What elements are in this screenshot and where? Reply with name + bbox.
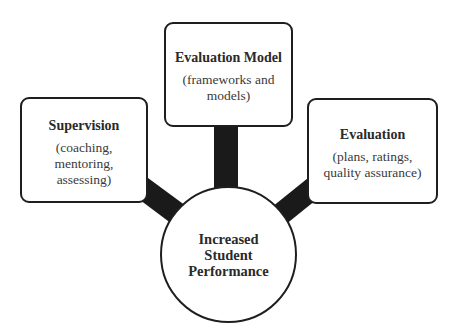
diagram-canvas: Evaluation Model (frameworks and models)… bbox=[0, 0, 457, 335]
center-node-student-performance: Increased Student Performance bbox=[160, 186, 297, 323]
node-heading: Supervision bbox=[22, 118, 146, 134]
node-heading: Evaluation bbox=[309, 127, 436, 143]
node-heading: Evaluation Model bbox=[166, 50, 291, 66]
connector-top bbox=[214, 125, 238, 190]
node-description: (coaching, mentoring, assessing) bbox=[22, 140, 146, 188]
node-evaluation-model: Evaluation Model (frameworks and models) bbox=[164, 22, 293, 127]
node-supervision: Supervision (coaching, mentoring, assess… bbox=[20, 97, 148, 203]
node-description: (frameworks and models) bbox=[166, 72, 291, 104]
node-description: (plans, ratings, quality assurance) bbox=[309, 149, 436, 181]
center-label: Increased Student Performance bbox=[162, 231, 295, 279]
node-evaluation: Evaluation (plans, ratings, quality assu… bbox=[307, 98, 438, 204]
